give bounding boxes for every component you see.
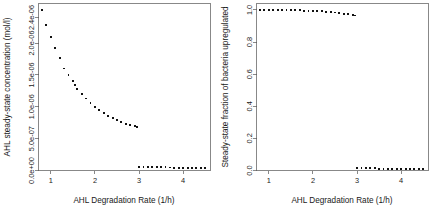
data-point <box>134 125 136 127</box>
y-tick-label: 0.2 <box>245 133 254 143</box>
data-point <box>286 9 288 11</box>
data-point <box>294 9 296 11</box>
data-point <box>107 115 109 117</box>
y-tick-label: 1.0e-06 <box>27 94 36 119</box>
data-point <box>136 126 138 128</box>
data-point <box>41 9 43 11</box>
left-data-points <box>41 9 206 169</box>
data-point <box>129 124 131 126</box>
data-point <box>365 167 367 169</box>
data-point <box>361 167 363 169</box>
data-point <box>405 168 407 170</box>
plot-left-svg: 0.0e+005.0e-071.0e-061.5e-062.0e-062.4e-… <box>0 0 217 210</box>
x-tick-label: 3 <box>137 176 141 185</box>
data-point <box>178 167 180 169</box>
x-tick-label: 4 <box>181 176 185 185</box>
data-point <box>200 167 202 169</box>
data-point <box>338 12 340 14</box>
data-point <box>387 168 389 170</box>
left-plot-frame <box>39 4 211 171</box>
data-point <box>418 168 420 170</box>
data-point <box>321 10 323 12</box>
data-point <box>59 57 61 59</box>
x-tick-label: 2 <box>311 176 315 185</box>
data-point <box>378 168 380 170</box>
data-point <box>330 11 332 13</box>
y-tick-label: 5.0e-07 <box>27 126 36 151</box>
data-point <box>396 168 398 170</box>
right-x-axis-title: AHL Degradation Rate (1/h) <box>291 196 392 205</box>
data-point <box>45 24 47 26</box>
data-point <box>356 167 358 169</box>
data-point <box>169 167 171 169</box>
y-tick-label: 0.0e+00 <box>27 157 36 184</box>
y-tick-label: 1.5e-06 <box>27 62 36 87</box>
data-point <box>90 102 92 104</box>
data-point <box>103 112 105 114</box>
data-point <box>290 9 292 11</box>
data-point <box>272 9 274 11</box>
data-point <box>112 117 114 119</box>
data-point <box>68 74 70 76</box>
data-point <box>120 121 122 123</box>
x-tick-label: 2 <box>93 176 97 185</box>
data-point <box>191 167 193 169</box>
data-point <box>74 84 76 86</box>
data-point <box>81 93 83 95</box>
data-point <box>125 123 127 125</box>
figure-two-panel-scatter: 0.0e+005.0e-071.0e-061.5e-062.0e-062.4e-… <box>0 0 435 210</box>
data-point <box>422 168 424 170</box>
data-point <box>308 10 310 12</box>
x-tick-label: 3 <box>355 176 359 185</box>
data-point <box>259 9 261 11</box>
data-point <box>400 168 402 170</box>
data-point <box>391 168 393 170</box>
data-point <box>187 167 189 169</box>
data-point <box>195 167 197 169</box>
data-point <box>343 13 345 15</box>
data-point <box>72 80 74 82</box>
data-point <box>369 167 371 169</box>
data-point <box>281 9 283 11</box>
data-point <box>143 166 145 168</box>
data-point <box>85 98 87 100</box>
data-point <box>268 9 270 11</box>
x-tick-label: 1 <box>49 176 53 185</box>
right-y-ticks: 0.00.20.40.60.81.0 <box>245 5 256 176</box>
data-point <box>147 166 149 168</box>
left-x-ticks: 1234 <box>49 171 185 185</box>
data-point <box>383 168 385 170</box>
panel-fraction-upregulated: 0.00.20.40.60.81.0 1234 AHL Degradation … <box>218 0 435 210</box>
right-data-points <box>259 9 424 170</box>
y-tick-label: 0.0 <box>245 165 254 175</box>
data-point <box>325 11 327 13</box>
plot-right-svg: 0.00.20.40.60.81.0 1234 AHL Degradation … <box>218 0 435 210</box>
data-point <box>334 12 336 14</box>
data-point <box>151 166 153 168</box>
left-x-axis-title: AHL Degradation Rate (1/h) <box>73 196 174 205</box>
y-tick-label: 0.6 <box>245 69 254 79</box>
panel-ahl-concentration: 0.0e+005.0e-071.0e-061.5e-062.0e-062.4e-… <box>0 0 217 210</box>
data-point <box>116 119 118 121</box>
data-point <box>374 167 376 169</box>
data-point <box>204 167 206 169</box>
y-tick-label: 2.0e-06 <box>27 30 36 55</box>
data-point <box>312 10 314 12</box>
data-point <box>299 9 301 11</box>
right-y-axis-title: Steady-state fraction of bacteria upregu… <box>221 6 230 168</box>
data-point <box>263 9 265 11</box>
y-tick-label: 0.8 <box>245 37 254 47</box>
data-point <box>413 168 415 170</box>
left-y-ticks: 0.0e+005.0e-071.0e-061.5e-062.0e-062.4e-… <box>27 5 38 184</box>
data-point <box>409 168 411 170</box>
data-point <box>76 88 78 90</box>
data-point <box>316 10 318 12</box>
data-point <box>352 14 354 16</box>
data-point <box>138 166 140 168</box>
right-x-ticks: 1234 <box>267 171 403 185</box>
data-point <box>277 9 279 11</box>
data-point <box>156 166 158 168</box>
data-point <box>63 68 65 70</box>
y-tick-label: 2.4e-06 <box>27 5 36 30</box>
data-point <box>347 13 349 15</box>
